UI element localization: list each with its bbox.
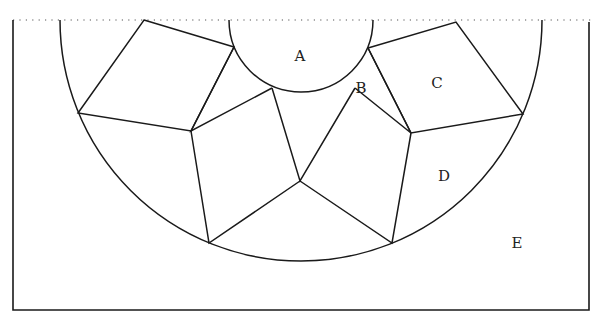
- label-d: D: [438, 167, 450, 185]
- left-square-tile: [78, 20, 234, 131]
- lower-left-quad-tile: [191, 131, 300, 243]
- lower-right-quad-tile-d: [300, 133, 411, 243]
- geometry-diagram: A B C D E: [0, 0, 602, 319]
- label-c: C: [431, 74, 442, 92]
- label-e: E: [512, 234, 523, 252]
- central-triangle-tile: [272, 88, 355, 181]
- label-a: A: [294, 47, 306, 65]
- label-b: B: [355, 79, 366, 97]
- left-triangle-tile: [191, 47, 272, 131]
